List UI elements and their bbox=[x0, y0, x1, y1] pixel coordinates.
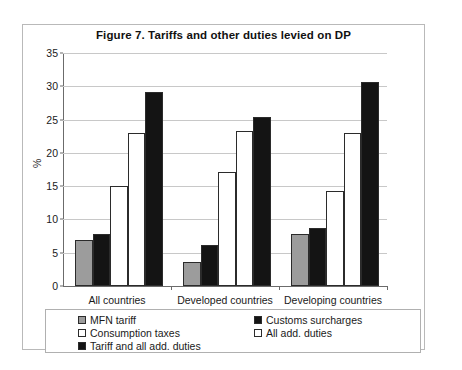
y-tick-label: 35 bbox=[46, 47, 58, 59]
plot-area: 05101520253035 All countriesDeveloped co… bbox=[63, 53, 387, 286]
x-category-label: Developing countries bbox=[284, 294, 382, 306]
y-tick-label: 0 bbox=[52, 280, 58, 292]
y-tick-label: 5 bbox=[52, 247, 58, 259]
bar bbox=[183, 262, 201, 286]
legend-column-right: Customs surchargesAll add. duties bbox=[254, 314, 362, 340]
legend-item-label: All add. duties bbox=[266, 327, 332, 339]
legend-item[interactable]: All add. duties bbox=[254, 327, 362, 339]
bar bbox=[201, 245, 219, 286]
gridline bbox=[63, 286, 387, 287]
bar-group bbox=[171, 53, 279, 286]
bar bbox=[145, 92, 163, 286]
bar bbox=[75, 240, 93, 286]
y-tick-label: 30 bbox=[46, 80, 58, 92]
y-tick-label: 10 bbox=[46, 213, 58, 225]
legend-item-label: Customs surcharges bbox=[266, 314, 362, 326]
bar bbox=[93, 234, 111, 286]
legend-swatch-icon bbox=[254, 329, 262, 337]
bar bbox=[110, 186, 128, 286]
y-tick-label: 15 bbox=[46, 180, 58, 192]
legend-swatch-icon bbox=[254, 316, 262, 324]
x-tick-mark bbox=[279, 286, 280, 290]
legend-item[interactable]: Consumption taxes bbox=[78, 327, 201, 339]
bar bbox=[218, 172, 236, 287]
legend-swatch-icon bbox=[78, 329, 86, 337]
bar bbox=[128, 133, 146, 286]
bar bbox=[236, 131, 254, 286]
legend-column-left: MFN tariffConsumption taxesTariff and al… bbox=[78, 314, 201, 353]
x-category-label: All countries bbox=[88, 294, 145, 306]
legend-swatch-icon bbox=[78, 342, 86, 350]
chart-legend: MFN tariffConsumption taxesTariff and al… bbox=[45, 309, 421, 353]
y-tick-label: 20 bbox=[46, 147, 58, 159]
legend-swatch-icon bbox=[78, 316, 86, 324]
legend-item-label: MFN tariff bbox=[90, 314, 136, 326]
page-title: Figure 7. Tariffs and other duties levie… bbox=[23, 29, 424, 41]
bar bbox=[253, 117, 271, 286]
y-axis-title: % bbox=[31, 159, 43, 168]
bar bbox=[326, 191, 344, 286]
legend-item[interactable]: Customs surcharges bbox=[254, 314, 362, 326]
legend-item[interactable]: MFN tariff bbox=[78, 314, 201, 326]
bar-group bbox=[63, 53, 171, 286]
bar bbox=[344, 133, 362, 286]
legend-item[interactable]: Tariff and all add. duties bbox=[78, 340, 201, 352]
bar-group bbox=[279, 53, 387, 286]
bar bbox=[309, 228, 327, 286]
bar bbox=[291, 234, 309, 286]
bar bbox=[361, 82, 379, 286]
x-tick-mark bbox=[387, 286, 388, 290]
x-tick-mark bbox=[171, 286, 172, 290]
legend-item-label: Consumption taxes bbox=[90, 327, 180, 339]
y-tick-label: 25 bbox=[46, 114, 58, 126]
x-category-label: Developed countries bbox=[177, 294, 273, 306]
legend-item-label: Tariff and all add. duties bbox=[90, 340, 201, 352]
figure-frame: Figure 7. Tariffs and other duties levie… bbox=[22, 24, 425, 350]
